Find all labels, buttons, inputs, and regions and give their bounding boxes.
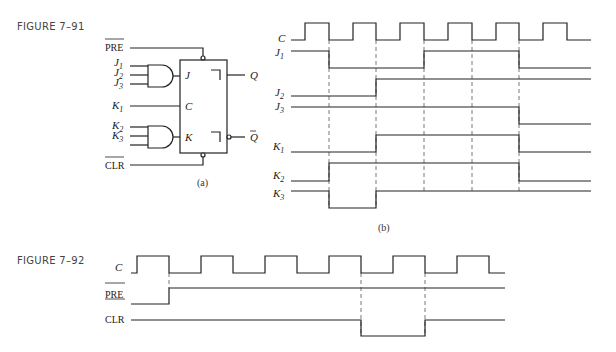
waveform-k2 <box>291 163 591 181</box>
caption-a: (a) <box>197 177 208 189</box>
clr-92-label: CLR <box>105 314 125 325</box>
waveform-k3 <box>291 191 591 208</box>
waveform-j3 <box>291 107 591 124</box>
waveform-k1 <box>291 135 591 152</box>
ff-c-pin: C <box>185 100 193 112</box>
k2-signal-label: K2 <box>272 169 284 184</box>
c-signal-label: C <box>278 32 286 44</box>
qbar-output-label: Q <box>250 131 258 143</box>
ff-k-pin: K <box>184 131 193 143</box>
k1-signal-label: K1 <box>272 140 284 155</box>
waveform-92-clr <box>131 320 505 336</box>
j3-signal-label: J3 <box>275 100 284 115</box>
ff-j-pin: J <box>185 69 191 81</box>
pre-92-label: PRE <box>105 289 123 300</box>
waveform-j1 <box>291 51 591 68</box>
waveform-j2 <box>291 79 591 96</box>
pre-label: PRE <box>105 42 123 53</box>
c-92-label: C <box>115 261 123 273</box>
k1-input-label: K1 <box>111 99 123 114</box>
j2-signal-label: J2 <box>275 86 284 101</box>
and-gate-k <box>148 126 173 148</box>
waveform-92-pre <box>131 288 505 304</box>
j1-signal-label: J1 <box>275 46 284 61</box>
and-gate-j <box>148 65 173 87</box>
caption-b: (b) <box>378 222 390 234</box>
q-output-label: Q <box>250 69 258 81</box>
timing-diagrams: PRE CLR J1 J2 J3 K1 K2 K3 J C K Q Q (a) … <box>0 0 616 352</box>
waveform-92-c <box>131 256 505 273</box>
k3-signal-label: K3 <box>272 187 284 202</box>
waveform-c <box>291 23 591 40</box>
clr-label: CLR <box>105 160 125 171</box>
